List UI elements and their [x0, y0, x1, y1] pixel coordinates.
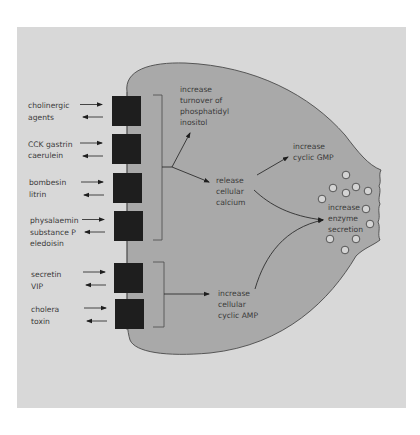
receptor-label: physalaeminsubstance Peledoisin [30, 216, 79, 248]
receptor-label: bombesinlitrin [29, 178, 66, 199]
circle-icon [341, 246, 349, 254]
acinar-cell-diagram: cholinergicagents CCK gastrincaerulein b… [0, 0, 420, 435]
receptor-box [112, 134, 141, 164]
circle-icon [366, 220, 374, 228]
circle-icon [364, 187, 372, 195]
circle-icon [326, 235, 334, 243]
receptor-box [115, 299, 144, 329]
circle-icon [342, 171, 350, 179]
receptor-box [114, 211, 143, 241]
circle-icon [329, 184, 337, 192]
enzyme-secretion-label: increase enzyme secretion [328, 203, 363, 234]
receptor-box [114, 263, 143, 293]
receptor-box [113, 173, 142, 203]
circle-icon [362, 205, 370, 213]
receptor-label: secretinVIP [31, 270, 62, 291]
receptor-box [112, 96, 141, 126]
receptor-label: cholinergicagents [28, 101, 69, 122]
circle-icon [318, 195, 326, 203]
calcium-label: release cellular calcium [216, 176, 246, 207]
receptor-label: CCK gastrincaerulein [28, 140, 73, 161]
receptor-labels: cholinergicagents CCK gastrincaerulein b… [28, 101, 79, 326]
circle-icon [352, 235, 360, 243]
receptor-arrows [80, 105, 107, 322]
receptor-label: choleratoxin [31, 305, 59, 326]
circle-icon [342, 189, 350, 197]
circle-icon [352, 183, 360, 191]
